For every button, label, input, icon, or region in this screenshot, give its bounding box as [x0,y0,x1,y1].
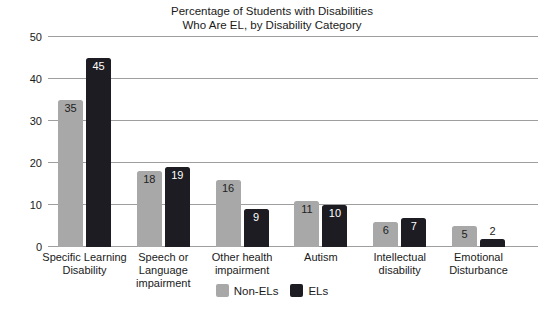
chart-title-line-2: Who Are EL, by Disability Category [0,18,544,32]
bar-value-label: 35 [52,102,89,114]
legend-swatch-non-els [216,284,229,297]
legend-item-els: ELs [290,284,328,297]
bar-els-specific-learning: 45 [86,58,111,247]
y-axis-tick-label-20: 20 [6,157,42,169]
bar-value-label: 10 [316,207,353,219]
bar-non-els-speech-or: 18 [137,171,162,247]
bar-group-autism: 1110Autism [294,201,347,247]
category-label-emotional: Emotional Disturbance [422,251,534,277]
bar-chart-figure: Percentage of Students with Disabilities… [0,0,544,314]
bar-els-intellectual: 7 [401,218,426,247]
bar-value-label: 19 [159,169,196,181]
bar-value-label: 7 [395,220,432,232]
legend: Non-ELsELs [0,284,544,297]
chart-title-line-1: Percentage of Students with Disabilities [0,4,544,18]
y-axis-tick-label-10: 10 [6,199,42,211]
bar-non-els-specific-learning: 35 [58,100,83,247]
legend-swatch-els [290,284,303,297]
y-axis-tick-label-30: 30 [6,115,42,127]
bar-els-autism: 10 [322,205,347,247]
legend-label-non-els: Non-ELs [234,285,279,297]
bar-group-specific-learning: 3545Specific Learning Disability [58,58,111,247]
chart-title: Percentage of Students with Disabilities… [0,4,544,32]
bar-value-label: 9 [238,211,275,223]
bar-els-other-health: 9 [244,209,269,247]
bar-els-speech-or: 19 [165,167,190,247]
legend-item-non-els: Non-ELs [216,284,279,297]
bar-value-label: 2 [474,225,511,237]
y-axis-tick-label-40: 40 [6,73,42,85]
y-axis-tick-label-50: 50 [6,31,42,43]
bar-value-label: 16 [210,182,247,194]
legend-label-els: ELs [308,285,328,297]
bar-group-intellectual: 67Intellectual disability [373,218,426,247]
bar-els-emotional: 2 [480,239,505,247]
bar-group-speech-or: 1819Speech or Language impairment [137,167,190,247]
plot-area: 010203040503545Specific Learning Disabil… [48,37,538,247]
bar-group-other-health: 169Other health impairment [216,180,269,247]
bar-groups: 3545Specific Learning Disability1819Spee… [48,37,538,247]
bar-value-label: 45 [80,60,117,72]
bar-group-emotional: 52Emotional Disturbance [452,226,505,247]
